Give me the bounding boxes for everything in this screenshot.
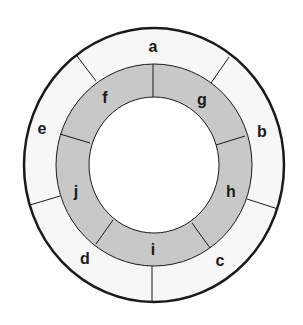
segment-label-h: h xyxy=(226,183,236,200)
segment-label-f: f xyxy=(102,89,108,106)
segment-label-i: i xyxy=(151,241,155,258)
center-hole xyxy=(89,97,219,233)
segment-label-j: j xyxy=(73,183,78,200)
segment-label-a: a xyxy=(149,38,158,55)
ring-diagram: a b c d e f g h i j xyxy=(0,0,303,325)
segment-label-e: e xyxy=(38,120,47,137)
segment-label-c: c xyxy=(216,252,225,269)
segment-label-d: d xyxy=(80,250,90,267)
segment-label-b: b xyxy=(257,123,267,140)
segment-label-g: g xyxy=(197,91,207,108)
